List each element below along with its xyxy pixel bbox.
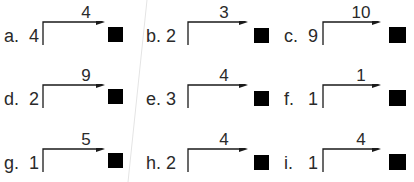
answer-box[interactable] (389, 90, 406, 106)
problem-g: g. 1 5 (4, 135, 134, 182)
start-number: 2 (29, 89, 39, 109)
step-number: 9 (71, 67, 101, 85)
step-number: 1 (346, 67, 376, 85)
step-number: 4 (209, 67, 239, 85)
arrow-icon (322, 21, 386, 45)
problem-label: g. (4, 153, 19, 173)
step-number: 3 (209, 4, 239, 22)
problem-label: b. (146, 26, 161, 46)
start-number: 9 (308, 26, 318, 46)
answer-box[interactable] (254, 155, 269, 170)
problem-h: h. 2 4 (146, 135, 276, 182)
arrow-icon (42, 21, 106, 45)
problem-label: e. (146, 89, 161, 109)
problem-d: d. 2 9 (4, 71, 134, 121)
problem-a: a. 4 4 (4, 8, 134, 58)
answer-box[interactable] (389, 154, 406, 170)
start-number: 1 (308, 153, 318, 173)
problem-c: c. 9 10 (284, 8, 414, 58)
problem-label: h. (146, 153, 161, 173)
answer-box[interactable] (254, 28, 269, 43)
arrow-icon (322, 148, 386, 172)
start-number: 4 (29, 26, 39, 46)
start-number: 1 (29, 153, 39, 173)
answer-box[interactable] (108, 153, 123, 168)
answer-box[interactable] (389, 27, 406, 43)
start-number: 2 (166, 26, 176, 46)
answer-box[interactable] (108, 27, 123, 42)
arrow-icon (187, 148, 251, 172)
arrow-icon (322, 84, 386, 108)
problem-label: a. (4, 26, 19, 46)
step-number: 4 (209, 131, 239, 149)
arrow-icon (187, 21, 251, 45)
answer-box[interactable] (254, 91, 269, 106)
step-number: 4 (346, 131, 376, 149)
arrow-icon (42, 84, 106, 108)
problem-i: i. 1 4 (284, 135, 414, 182)
problem-e: e. 3 4 (146, 71, 276, 121)
problem-label: d. (4, 89, 19, 109)
arrow-icon (42, 148, 106, 172)
step-number: 10 (346, 4, 376, 22)
start-number: 2 (166, 153, 176, 173)
answer-box[interactable] (108, 89, 123, 104)
problem-label: f. (284, 89, 294, 109)
problem-label: i. (284, 153, 293, 173)
step-number: 4 (71, 4, 101, 22)
problem-label: c. (284, 26, 298, 46)
start-number: 3 (166, 89, 176, 109)
arrow-icon (187, 84, 251, 108)
problem-f: f. 1 1 (284, 71, 414, 121)
problem-b: b. 2 3 (146, 8, 276, 58)
start-number: 1 (308, 89, 318, 109)
step-number: 5 (71, 131, 101, 149)
